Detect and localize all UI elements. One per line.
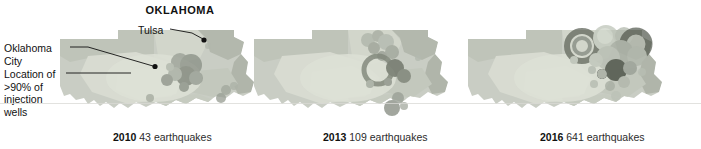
figure-root: OKLAHOMA xyxy=(0,0,701,149)
caption-year-2016: 2016 xyxy=(540,131,563,143)
caption-year-2010: 2010 xyxy=(113,131,136,143)
caption-2016: 2016 641 earthquakes xyxy=(540,131,645,143)
caption-year-2013: 2013 xyxy=(323,131,346,143)
caption-2013: 2013 109 earthquakes xyxy=(323,131,428,143)
caption-2010: 2010 43 earthquakes xyxy=(113,131,212,143)
caption-count-2016: 641 earthquakes xyxy=(566,131,644,143)
caption-count-2013: 109 earthquakes xyxy=(349,131,427,143)
city-dot-oklahoma-city xyxy=(152,64,157,69)
caption-count-2010: 43 earthquakes xyxy=(139,131,211,143)
scan-artifact xyxy=(0,103,701,104)
city-dot-tulsa xyxy=(201,37,206,42)
leader-lines xyxy=(0,0,701,149)
